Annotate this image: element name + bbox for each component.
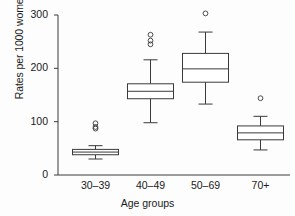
boxplot-40–49 [128, 32, 174, 122]
outlier-point [148, 32, 153, 37]
outlier-point [203, 11, 208, 16]
x-tick-label: 30–39 [66, 179, 126, 191]
x-tick-label: 40–49 [121, 179, 181, 191]
y-tick-label: 300 [18, 8, 48, 20]
boxplot-figure: Rates per 1000 women Age groups 01002003… [0, 0, 295, 216]
y-tick-label: 200 [18, 61, 48, 73]
x-tick-label: 50–69 [176, 179, 236, 191]
boxplot-70+ [238, 96, 284, 150]
box-iqr [183, 53, 229, 82]
outlier-point [258, 96, 263, 101]
x-tick-label: 70+ [231, 179, 291, 191]
y-tick-label: 100 [18, 115, 48, 127]
boxplot-30–39 [73, 121, 119, 159]
y-tick-label: 0 [18, 168, 48, 180]
x-axis-title: Age groups [0, 197, 295, 209]
boxplot-50–69 [183, 11, 229, 104]
